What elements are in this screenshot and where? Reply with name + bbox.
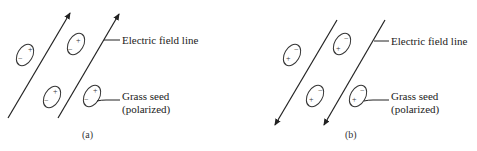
minus-sign: −: [344, 34, 349, 43]
minus-sign: −: [44, 96, 49, 105]
seed-label-line2-a: (polarized): [122, 103, 171, 116]
plus-sign: +: [286, 54, 291, 63]
field-line-b1: [275, 20, 337, 125]
plus-sign: +: [93, 86, 98, 95]
plus-sign: +: [53, 87, 58, 96]
field-line-b2: [324, 20, 385, 125]
minus-sign: −: [360, 86, 365, 95]
panel-b: − + − + − + − + Electric field line Gras…: [275, 20, 467, 141]
grass-seed-b1: [280, 41, 304, 68]
panel-a: + − + − + − + − Electric field line Gras…: [8, 13, 198, 141]
caption-a: (a): [82, 129, 93, 141]
minus-sign: −: [294, 45, 299, 54]
plus-sign: +: [28, 45, 33, 54]
minus-sign: −: [84, 95, 89, 104]
minus-sign: −: [318, 86, 323, 95]
minus-sign: −: [68, 45, 73, 54]
seed-label-line1-b: Grass seed: [391, 90, 439, 102]
grass-seed-a1: [13, 41, 37, 68]
grass-seed-b4: [346, 82, 370, 109]
caption-b: (b): [345, 129, 357, 141]
plus-sign: +: [336, 44, 341, 53]
seed-leader-a: [97, 100, 120, 101]
minus-sign: −: [18, 54, 23, 63]
grass-seed-b2: [330, 30, 354, 57]
plus-sign: +: [76, 36, 81, 45]
grass-seed-field-diagram: + − + − + − + − Electric field line Gras…: [0, 0, 477, 151]
seed-label-line1-a: Grass seed: [122, 90, 170, 102]
field-line-label-b: Electric field line: [391, 35, 467, 47]
seed-label-line2-b: (polarized): [391, 103, 440, 116]
plus-sign: +: [352, 95, 357, 104]
plus-sign: +: [309, 95, 314, 104]
seed-leader-b: [364, 100, 389, 101]
grass-seed-b3: [303, 82, 327, 109]
field-line-a1: [8, 13, 70, 118]
field-line-label-a: Electric field line: [122, 34, 198, 46]
